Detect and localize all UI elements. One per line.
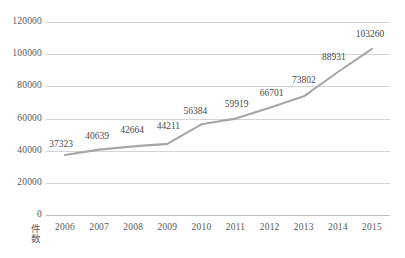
- series-line-件数: [65, 49, 372, 155]
- data-label: 59919: [225, 100, 249, 110]
- data-label: 37323: [49, 140, 73, 150]
- data-label: 56384: [184, 107, 208, 117]
- data-label: 66701: [260, 89, 284, 99]
- line-chart: 020000400006000080000100000120000 200620…: [0, 0, 405, 258]
- data-label: 88931: [322, 53, 346, 63]
- data-label: 40639: [85, 132, 109, 142]
- series-plot: [0, 0, 405, 258]
- data-label: 73802: [292, 76, 316, 86]
- data-label: 42664: [120, 126, 144, 136]
- y-axis-title: 件数: [27, 224, 39, 244]
- data-label: 44211: [157, 122, 180, 132]
- data-label: 103260: [356, 30, 385, 40]
